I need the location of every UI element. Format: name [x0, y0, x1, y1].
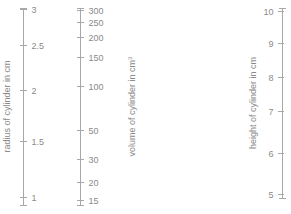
axis-title-volume: volume of cylinder in cm3	[127, 56, 137, 157]
nomogram-figure: 32.521.51radius of cylinder in cm3002502…	[0, 0, 291, 214]
tick-label-volume-250: 250	[89, 18, 104, 28]
nomogram-canvas: 32.521.51radius of cylinder in cm3002502…	[0, 0, 291, 214]
axis-title-text-radius: radius of cylinder in cm	[2, 60, 12, 152]
axis-height: 1098765height of cylinder in cm	[248, 7, 286, 200]
tick-label-height-9: 9	[268, 39, 273, 49]
tick-label-radius-3: 3	[32, 5, 37, 15]
tick-label-radius-1: 1	[32, 193, 37, 203]
tick-label-volume-50: 50	[89, 126, 99, 136]
tick-label-radius-2: 2	[32, 86, 37, 96]
axis-title-text-height: height of cylinder in cm	[248, 57, 258, 149]
tick-label-height-5: 5	[268, 190, 273, 200]
tick-label-volume-200: 200	[89, 33, 104, 43]
tick-label-radius-1.5: 1.5	[32, 137, 45, 147]
tick-label-volume-300: 300	[89, 6, 104, 16]
tick-label-height-7: 7	[268, 107, 273, 117]
tick-label-volume-20: 20	[89, 178, 99, 188]
axis-title-text-volume: volume of cylinder in cm	[127, 60, 137, 157]
axis-radius: 32.521.51radius of cylinder in cm	[2, 5, 44, 206]
tick-label-volume-100: 100	[89, 82, 104, 92]
axis-title-superscript-volume: 3	[127, 56, 133, 60]
axis-title-height: height of cylinder in cm	[248, 57, 258, 149]
tick-label-radius-2.5: 2.5	[32, 41, 45, 51]
tick-label-volume-15: 15	[89, 196, 99, 206]
axis-title-radius: radius of cylinder in cm	[2, 60, 12, 152]
tick-label-volume-150: 150	[89, 53, 104, 63]
tick-label-height-8: 8	[268, 73, 273, 83]
axis-volume: 30025020015010050302015volume of cylinde…	[77, 6, 137, 206]
tick-label-volume-30: 30	[89, 155, 99, 165]
tick-label-height-6: 6	[268, 149, 273, 159]
tick-label-height-10: 10	[263, 7, 273, 17]
